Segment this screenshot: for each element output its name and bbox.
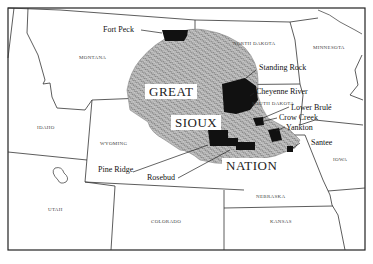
state-label-utah: UTAH [48, 207, 63, 212]
fort-peck-reservation [162, 30, 188, 41]
state-label-south-dakota: SOUTH DAKOTA [252, 101, 294, 106]
state-label-minnesota: MINNESOTA [313, 45, 345, 50]
state-label-iowa: IOWA [333, 157, 347, 162]
reservation-label-santee: Santee [311, 139, 332, 147]
map-canvas [0, 0, 373, 264]
reservation-label-lower-brule: Lower Brulé [291, 104, 332, 112]
rosebud-reservation [236, 142, 255, 150]
state-label-wyoming: WYOMING [100, 141, 127, 146]
reservation-label-pine-ridge: Pine Ridge [98, 166, 133, 174]
state-label-north-dakota: NORTH DAKOTA [233, 41, 275, 46]
reservation-label-cheyenne-river: Cheyenne River [256, 88, 308, 96]
state-label-kansas: KANSAS [270, 219, 292, 224]
santee-reservation [287, 146, 293, 152]
region-label-nation: NATION [222, 158, 281, 173]
state-label-montana: MONTANA [79, 55, 106, 60]
region-label-great: GREAT [145, 84, 197, 99]
reservation-label-yankton: Yankton [286, 124, 313, 132]
reservation-label-rosebud: Rosebud [147, 174, 175, 182]
reservation-label-standing-rock: Standing Rock [259, 64, 306, 72]
reservation-label-crow-creek: Crow Creek [279, 114, 318, 122]
region-label-sioux: SIOUX [171, 115, 221, 130]
reservation-label-fort-peck: Fort Peck [103, 26, 134, 34]
state-label-colorado: COLORADO [151, 219, 181, 224]
state-label-nebraska: NEBRASKA [256, 194, 285, 199]
state-label-idaho: IDAHO [37, 125, 55, 130]
